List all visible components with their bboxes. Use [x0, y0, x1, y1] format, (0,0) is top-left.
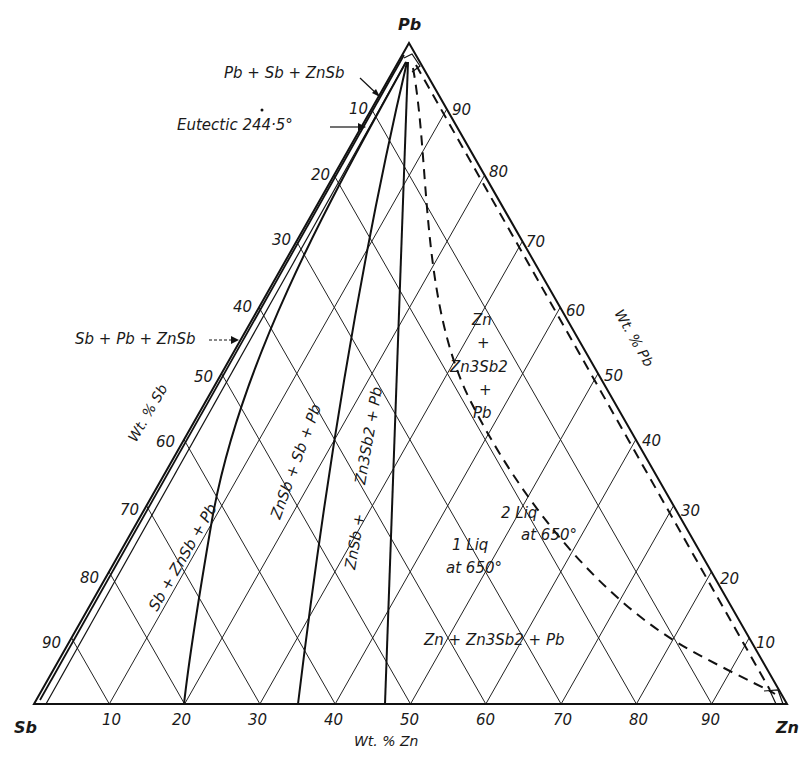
tick-zn-90: 90 — [701, 711, 720, 729]
tick-sb-70: 70 — [120, 501, 139, 519]
axis-title-pb: Wt. % Pb — [611, 307, 657, 370]
corner-label-zn: Zn — [775, 718, 799, 737]
tick-zn-10: 10 — [102, 711, 121, 729]
region-sb-znsb-pb: Sb + ZnSb + Pb — [145, 501, 221, 614]
grid-line — [372, 109, 712, 704]
tick-sb-10: 10 — [349, 100, 368, 118]
tick-sb-30: 30 — [272, 231, 291, 249]
boundary-pb-sb-inner — [40, 55, 404, 700]
region-label-plus2: + — [479, 381, 492, 399]
tick-sb-60: 60 — [156, 433, 175, 451]
tick-zn-20: 20 — [172, 711, 191, 729]
grid-line — [561, 506, 674, 704]
tick-pb-70: 70 — [526, 233, 545, 251]
tick-pb-80: 80 — [489, 163, 508, 181]
tick-pb-40: 40 — [642, 432, 661, 450]
region-label-zn3sb2: Zn3Sb2 — [449, 358, 508, 376]
annotation-pb-sb-znsb: Pb + Sb + ZnSb — [224, 64, 345, 82]
bottom-axis-ticks: 10 20 30 40 50 60 70 80 90 — [102, 711, 720, 729]
tick-zn-60: 60 — [476, 711, 495, 729]
tick-zn-70: 70 — [553, 711, 572, 729]
left-axis-ticks: 10 20 30 40 50 60 70 80 90 — [42, 100, 368, 652]
region-znsb-plus: ZnSb + — [341, 512, 369, 571]
tick-sb-40: 40 — [233, 298, 252, 316]
region-1liq-temp: at 650° — [446, 559, 502, 577]
region-2liq-temp: at 650° — [521, 526, 577, 544]
tick-zn-40: 40 — [324, 711, 343, 729]
eutectic-dot — [261, 109, 264, 112]
annotation-eutectic: Eutectic 244·5° — [177, 116, 293, 134]
tick-sb-90: 90 — [42, 634, 61, 652]
tick-sb-80: 80 — [80, 569, 99, 587]
axis-title-zn: Wt. % Zn — [354, 733, 418, 749]
region-1liq-label: 1 Liq — [452, 536, 488, 554]
region-label-plus1: + — [477, 334, 490, 352]
boundary-eutectic-line — [46, 62, 406, 704]
tick-pb-30: 30 — [681, 502, 700, 520]
tick-sb-20: 20 — [311, 166, 330, 184]
tick-pb-10: 10 — [756, 634, 775, 652]
tick-zn-50: 50 — [400, 711, 419, 729]
tick-zn-80: 80 — [629, 711, 648, 729]
region-zn-zn3sb2-pb-bottom: Zn + Zn3Sb2 + Pb — [423, 631, 564, 649]
tick-pb-60: 60 — [566, 302, 585, 320]
corner-label-pb: Pb — [398, 15, 421, 34]
region-label-zn: Zn — [471, 311, 492, 329]
boundary-znsb-sb — [184, 62, 406, 704]
dashed-right-edge — [416, 65, 770, 690]
annotation-sb-pb-znsb: Sb + Pb + ZnSb — [75, 330, 196, 348]
grid-lines — [72, 109, 750, 704]
boundary-zn3sb2 — [385, 62, 408, 704]
tick-zn-30: 30 — [248, 711, 267, 729]
tick-pb-50: 50 — [604, 367, 623, 385]
region-label-pb: Pb — [473, 404, 492, 422]
ternary-diagram: Pb Sb Zn 10 20 30 40 50 60 70 80 90 Wt. … — [0, 0, 806, 764]
tick-pb-90: 90 — [452, 101, 471, 119]
region-zn-zn3sb2-pb: Zn + Zn3Sb2 + Pb — [449, 311, 508, 422]
tick-sb-50: 50 — [194, 368, 213, 386]
corner-label-sb: Sb — [14, 718, 37, 737]
region-2liq-label: 2 Liq — [501, 504, 537, 522]
tick-pb-20: 20 — [720, 570, 739, 588]
